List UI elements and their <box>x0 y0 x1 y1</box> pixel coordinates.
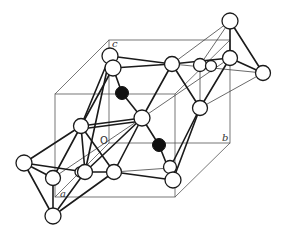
atom-open <box>134 110 150 126</box>
thin-bonds <box>53 21 263 178</box>
atom-open <box>45 208 61 224</box>
atom-open <box>74 119 89 134</box>
atom-open <box>107 165 122 180</box>
atom-open <box>16 155 32 171</box>
atom-filled <box>153 139 166 152</box>
atom-open <box>165 172 181 188</box>
atom-open <box>256 66 271 81</box>
origin-label: O <box>100 135 108 146</box>
axis-label-b: b <box>222 132 228 143</box>
atom-open <box>165 57 180 72</box>
atom-open <box>222 13 238 29</box>
atom-open <box>206 61 217 72</box>
cell-edge <box>55 40 109 94</box>
atoms <box>16 13 271 224</box>
axis-label-a: a <box>60 188 66 199</box>
atom-open <box>46 171 61 186</box>
atom-open <box>223 51 238 66</box>
atom-open <box>193 101 208 116</box>
atom-filled <box>116 87 129 100</box>
axis-label-c: c <box>112 38 118 49</box>
atom-open <box>194 59 207 72</box>
atom-open <box>105 60 121 76</box>
crystal-structure-diagram: c b a O <box>0 0 284 236</box>
atom-open <box>78 165 93 180</box>
